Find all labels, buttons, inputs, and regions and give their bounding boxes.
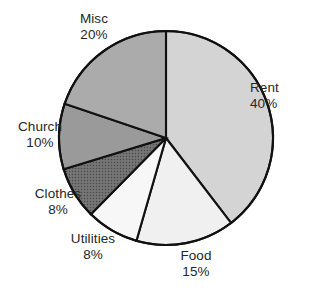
slice-label-misc-name: Misc <box>56 11 132 27</box>
slice-label-rent: Rent 40% <box>250 80 312 111</box>
slice-label-church: Church 10% <box>2 119 78 150</box>
slice-label-rent-percent: 40% <box>250 96 312 112</box>
slice-label-utilities: Utilities 8% <box>52 231 134 262</box>
slice-label-clothes-name: Clothes <box>20 186 96 202</box>
slice-label-rent-name: Rent <box>250 80 312 96</box>
slice-label-utilities-name: Utilities <box>52 231 134 247</box>
slice-label-food: Food 15% <box>161 248 231 279</box>
slice-label-misc: Misc 20% <box>56 11 132 42</box>
slice-label-clothes: Clothes 8% <box>20 186 96 217</box>
slice-label-utilities-percent: 8% <box>52 247 134 263</box>
slice-label-misc-percent: 20% <box>56 27 132 43</box>
slice-label-clothes-percent: 8% <box>20 202 96 218</box>
slice-label-church-name: Church <box>2 119 78 135</box>
slice-label-food-percent: 15% <box>161 264 231 280</box>
slice-label-food-name: Food <box>161 248 231 264</box>
slice-label-church-percent: 10% <box>2 135 78 151</box>
pie-chart-figure: Misc 20% Rent 40% Church 10% Clothes 8% … <box>0 0 314 293</box>
